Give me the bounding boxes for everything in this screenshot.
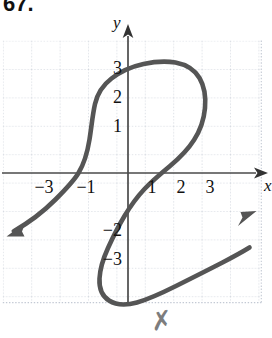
x-axis-label: x xyxy=(264,176,272,196)
x-tick-label-neg3: −3 xyxy=(29,177,59,198)
y-tick-label-3: 3 xyxy=(96,58,122,79)
y-tick-label-2: 2 xyxy=(96,87,122,108)
arrow-up-icon xyxy=(123,24,134,38)
x-tick-label-2: 2 xyxy=(172,177,190,198)
figure-container: 67. y xyxy=(0,0,272,338)
y-tick-label-neg3: −3 xyxy=(88,249,122,270)
x-tick-label-1: 1 xyxy=(143,177,161,198)
y-axis-label: y xyxy=(113,13,121,33)
y-tick-label-1: 1 xyxy=(96,116,122,137)
handwritten-x-mark: ✗ xyxy=(149,305,175,338)
x-tick-label-neg1: −1 xyxy=(71,177,101,198)
y-tick-label-neg2: −2 xyxy=(88,220,122,241)
graph-svg xyxy=(0,0,272,338)
x-tick-label-3: 3 xyxy=(201,177,219,198)
